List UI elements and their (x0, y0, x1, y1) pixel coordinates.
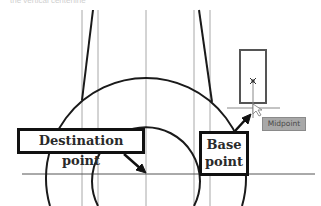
destination-point-callout: Destination point (17, 128, 145, 154)
left-taper-line (82, 10, 93, 100)
osnap-tooltip-label: Midpoint (268, 119, 300, 128)
destination-arrow (124, 154, 141, 169)
construction-lines (82, 10, 210, 206)
base-point-label-line2: point (202, 153, 246, 170)
cad-drawing-canvas[interactable] (0, 0, 321, 206)
base-point-label-line1: Base (202, 136, 246, 153)
midpoint-snap-cursor-icon (253, 104, 262, 116)
osnap-midpoint-tooltip: Midpoint (262, 117, 306, 131)
base-point-callout: Base point (199, 131, 249, 176)
